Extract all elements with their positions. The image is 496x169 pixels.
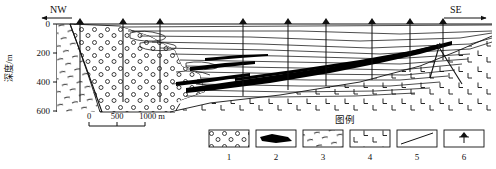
legend-number-3: 3 — [321, 152, 326, 162]
legend-swatch-schist — [303, 130, 343, 147]
legend-number-6: 6 — [462, 152, 467, 162]
legend-item-1[interactable]: 1 — [209, 130, 249, 162]
legend-swatch-volcanic — [350, 130, 390, 147]
legend-number-4: 4 — [368, 152, 373, 162]
depth-axis-title: 深度/m — [3, 54, 14, 82]
axis-tick-200: 200 — [37, 48, 51, 58]
legend-number-5: 5 — [415, 152, 420, 162]
depth-axis: 0 200 400 600 深度/m — [3, 19, 57, 116]
direction-nw: NW — [42, 4, 72, 18]
axis-tick-600: 600 — [37, 106, 51, 116]
direction-label-nw: NW — [50, 4, 67, 15]
scale-label-0: 0 — [87, 111, 91, 121]
legend-title: 图例 — [335, 114, 355, 125]
legend-item-6[interactable]: 6 — [444, 130, 484, 162]
legend-swatch-conglomerate — [209, 130, 249, 147]
cross-section-canvas: 0 200 400 600 深度/m NW SE — [0, 0, 496, 169]
axis-ticks — [53, 24, 57, 111]
scale-label-500: 500 — [111, 111, 124, 121]
legend: 图例 1 2 3 4 — [209, 114, 484, 162]
axis-tick-0: 0 — [46, 19, 51, 29]
legend-item-4[interactable]: 4 — [350, 130, 390, 162]
legend-item-5[interactable]: 5 — [397, 130, 437, 162]
geological-cross-section-figure: 0 200 400 600 深度/m NW SE — [0, 0, 496, 169]
legend-number-2: 2 — [274, 152, 279, 162]
direction-label-se: SE — [450, 4, 462, 15]
legend-item-2[interactable]: 2 — [256, 130, 296, 162]
legend-number-1: 1 — [227, 152, 232, 162]
axis-tick-400: 400 — [37, 77, 51, 87]
geology-body — [57, 24, 492, 112]
scale-bar: 0 500 1000 m — [87, 111, 165, 126]
direction-se: SE — [444, 4, 486, 18]
scale-bar-ruler — [89, 122, 145, 126]
legend-item-3[interactable]: 3 — [303, 130, 343, 162]
scale-label-1000: 1000 m — [139, 111, 165, 121]
